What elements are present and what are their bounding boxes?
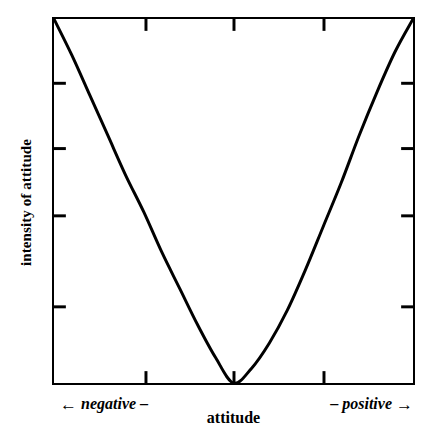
attitude-intensity-chart: intensity of attitude xyxy=(0,0,428,443)
plot-area xyxy=(52,17,415,385)
y-axis-ticks-right xyxy=(401,83,413,307)
x-axis-ticks-top xyxy=(146,19,324,31)
x-axis-ticks-bottom xyxy=(146,371,324,383)
y-axis-title: intensity of attitude xyxy=(19,93,34,313)
x-axis-label-row: ← negative – – positive → attitude xyxy=(52,392,415,438)
intensity-curve xyxy=(54,19,413,383)
x-axis-title: attitude xyxy=(52,409,415,427)
y-axis-ticks xyxy=(54,83,66,307)
plot-svg xyxy=(54,19,413,383)
